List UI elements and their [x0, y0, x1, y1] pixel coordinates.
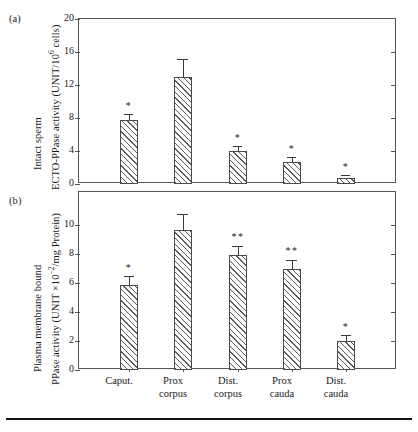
panel-a-star-dist-corpus: *: [224, 134, 252, 141]
panel-a-ytick-12: [75, 85, 80, 86]
figure-bottom-rule: [6, 418, 412, 420]
panel-b-star-dist-cauda: *: [332, 323, 360, 330]
panel-b-bar-caput: [120, 285, 138, 370]
panel-b-star-caput: *: [115, 264, 143, 271]
panel-a-bar-prox-corpus: [174, 77, 192, 184]
panel-b-errcap-prox-cauda: [286, 260, 297, 261]
panel-a-star-dist-cauda: *: [332, 163, 360, 170]
panel-a-ytick-8: [75, 118, 80, 119]
xaxis-label-dist-corpus: Dist. corpus: [203, 375, 253, 400]
panel-b-ytick-8: [75, 254, 80, 255]
panel-a-errbar2-prox-corpus: [183, 59, 184, 77]
panel-b-ylabel-exponent: −2: [47, 266, 56, 274]
panel-a-ytick-0: [75, 184, 80, 185]
xaxis-label-dist-cauda: Dist. cauda: [311, 375, 361, 400]
panel-a-bar-caput: [120, 120, 138, 184]
panel-a-ytick-right-8: [391, 118, 396, 119]
panel-a-label: (a): [9, 13, 21, 24]
panel-b-ylabel-8: 8: [52, 247, 74, 258]
panel-b-star-prox-cauda: **: [278, 247, 306, 254]
panel-a-ylabel-line2-pre: ECTO-PPase activity (UNIT/10: [50, 54, 61, 190]
panel-a-ylabel-16: 16: [52, 45, 74, 56]
panel-b-ytick-right-6: [391, 283, 396, 284]
panel-a-ytick-20: [75, 19, 80, 20]
panel-b-ylabel-10: 10: [52, 218, 74, 229]
panel-a-bar-dist-cauda: [337, 178, 355, 184]
panel-b-ytick-0: [75, 370, 80, 371]
panel-b-errcap-prox-corpus: [177, 214, 188, 215]
panel-b-ylabel-0: 0: [52, 363, 74, 374]
panel-a-ylabel-20: 20: [52, 12, 74, 23]
panel-b-ytick-right-10: [391, 225, 396, 226]
xaxis-label-prox-cauda: Prox cauda: [257, 375, 307, 400]
panel-b-ytick-2: [75, 341, 80, 342]
panel-a-bar-prox-cauda: [283, 162, 301, 184]
panel-b-bar-dist-corpus: [229, 255, 247, 370]
panel-a-ytick-16: [75, 52, 80, 53]
panel-a-ylabel-12: 12: [52, 78, 74, 89]
panel-b-ylabel-2: 2: [52, 334, 74, 345]
panel-b-errcap-dist-corpus: [232, 246, 243, 247]
panel-b-ytick-right-2: [391, 341, 396, 342]
panel-b-errbar-prox-corpus: [183, 214, 184, 230]
panel-b-ytick-10: [75, 225, 80, 226]
panel-a-plot-area: * * * *: [78, 18, 396, 183]
panel-b-ytick-right-8: [391, 254, 396, 255]
panel-b-ylabel-line2: PPase activity (UNIT ×10−2/mg Protein): [47, 213, 61, 385]
figure-container: (a) Intact sperm ECTO-PPase activity (UN…: [0, 0, 418, 432]
panel-a-errcap-caput: [124, 114, 133, 115]
panel-a-ytick-right-12: [391, 85, 396, 86]
panel-a-star-caput: *: [115, 102, 143, 109]
panel-b-label: (b): [9, 195, 22, 206]
panel-a-star-prox-cauda: *: [278, 145, 306, 152]
panel-b-plot-area: * ** ** *: [78, 191, 396, 369]
panel-b-star-dist-corpus: **: [224, 233, 252, 240]
panel-a-ylabel-0: 0: [52, 177, 74, 188]
panel-a-ytick-4: [75, 151, 80, 152]
panel-a-ylabel-8: 8: [52, 111, 74, 122]
panel-b-errcap-caput: [124, 276, 134, 277]
panel-b-bar-prox-corpus: [174, 230, 192, 370]
panel-b-ylabel-6: 6: [52, 276, 74, 287]
panel-a-errcap-dist-corpus: [233, 146, 242, 147]
panel-b-errbar-prox-cauda: [292, 260, 293, 269]
panel-a-errcap-prox-cauda: [287, 157, 296, 158]
panel-b-errcap-dist-cauda: [341, 335, 351, 336]
panel-b-bar-prox-cauda: [283, 269, 301, 370]
panel-b-ylabel-line1: Plasma membrane bound: [32, 265, 43, 372]
panel-a-ytick-right-4: [391, 151, 396, 152]
panel-a-ylabel-line1: Intact sperm: [32, 117, 43, 170]
xaxis-label-prox-corpus: Prox corpus: [148, 375, 198, 400]
panel-b-ytick-6: [75, 283, 80, 284]
panel-a-ytick-right-16: [391, 52, 396, 53]
panel-b-errbar-caput: [129, 276, 130, 285]
panel-a-bar-dist-corpus: [229, 151, 247, 184]
panel-b-ytick-4: [75, 312, 80, 313]
panel-b-bar-dist-cauda: [337, 341, 355, 370]
xaxis-label-caput: Caput.: [94, 375, 144, 388]
panel-b-errbar-dist-corpus: [238, 246, 239, 255]
panel-a-ylabel-4: 4: [52, 144, 74, 155]
panel-b-ytick-right-4: [391, 312, 396, 313]
panel-a-errcap-dist-cauda: [341, 175, 350, 176]
panel-b-ylabel-4: 4: [52, 305, 74, 316]
